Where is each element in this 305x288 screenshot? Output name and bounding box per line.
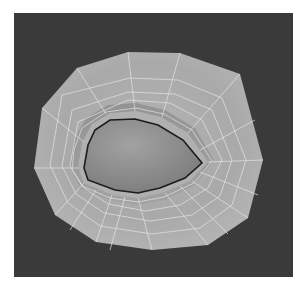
eye-mesh-render (0, 0, 305, 288)
